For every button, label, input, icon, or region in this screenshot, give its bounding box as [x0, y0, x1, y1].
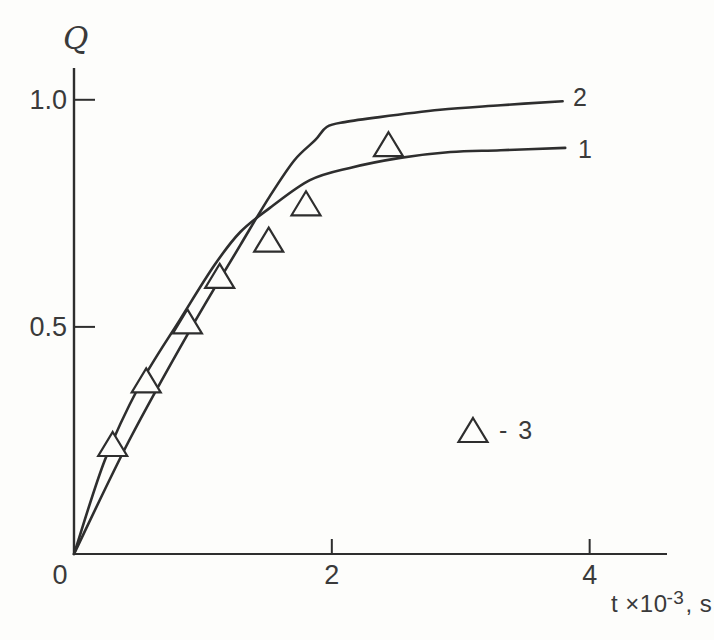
x-axis-label-base: t ×10	[611, 590, 668, 617]
curve-1-label: 1	[578, 135, 592, 164]
data-point-triangle	[98, 432, 127, 456]
curve-2-label: 2	[573, 83, 587, 112]
series	[74, 101, 565, 554]
x-tick-label: 2	[324, 560, 339, 590]
x-tick-label: 0	[52, 560, 67, 590]
figure: 0240.51.0 Q t ×10-3, s 2 1 - 3	[0, 0, 714, 640]
curve-2	[74, 101, 563, 554]
data-point-triangle	[254, 228, 283, 252]
data-point-triangle	[205, 264, 234, 288]
data-point-triangle	[374, 132, 403, 156]
legend: - 3	[456, 415, 534, 445]
y-axis-label: Q	[63, 20, 88, 56]
triangle-marker-icon	[456, 415, 490, 445]
data-point-triangle	[173, 309, 202, 333]
tick-labels: 0240.51.0	[29, 85, 597, 590]
x-tick-label: 4	[582, 560, 597, 590]
data-point-triangle	[292, 191, 321, 215]
x-axis-label-exponent: -3	[667, 587, 685, 608]
data-point-triangle	[132, 368, 161, 392]
chart-canvas: 0240.51.0	[0, 0, 714, 640]
x-axis-label: t ×10-3, s	[611, 586, 712, 618]
y-tick-label: 0.5	[29, 312, 67, 342]
y-tick-label: 1.0	[29, 85, 67, 115]
curve-1	[74, 148, 565, 554]
x-axis-label-suffix: , s	[685, 590, 712, 617]
legend-text: - 3	[499, 416, 534, 445]
